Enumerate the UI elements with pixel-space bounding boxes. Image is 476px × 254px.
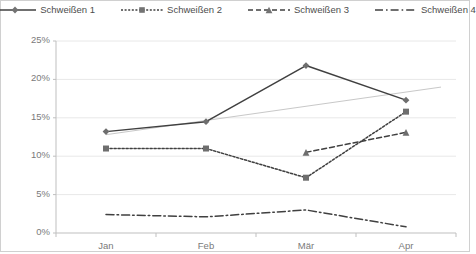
series-line-4 [106, 210, 406, 227]
data-point-marker [203, 146, 209, 152]
x-axis-tick-label: Apr [371, 240, 441, 251]
axis-lines [56, 41, 456, 233]
series-line-2 [106, 112, 406, 178]
y-axis-tick-label: 25% [4, 34, 50, 45]
y-axis-tick-label: 5% [4, 188, 50, 199]
y-axis-tick-label: 0% [4, 226, 50, 237]
y-axis-tick-label: 10% [4, 149, 50, 160]
data-point-marker [203, 118, 210, 125]
data-point-marker [403, 97, 410, 104]
data-series-group [103, 62, 410, 227]
data-point-marker [303, 62, 310, 69]
plot-area [1, 1, 471, 253]
data-point-marker [303, 175, 309, 181]
y-axis-tick-label: 20% [4, 72, 50, 83]
chart-container: Schweißen 1 Schweißen 2 Schweißen 3 Schw… [0, 0, 470, 252]
data-point-marker [403, 109, 409, 115]
x-axis-tick-label: Jan [71, 240, 141, 251]
data-point-marker [103, 146, 109, 152]
y-axis-tick-label: 15% [4, 111, 50, 122]
series-line-3 [306, 132, 406, 152]
x-axis-tick-label: Mär [271, 240, 341, 251]
axis-tick-marks [53, 41, 456, 237]
x-axis-tick-label: Feb [171, 240, 241, 251]
